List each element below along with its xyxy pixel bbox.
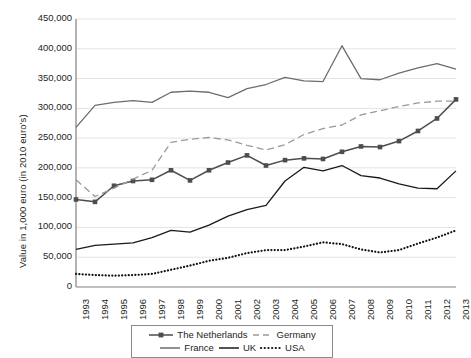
legend-swatch	[159, 343, 181, 353]
data-point-marker	[93, 200, 98, 205]
x-axis-tick-labels: 1993199419951996199719981999200020012002…	[0, 289, 465, 324]
legend-swatch	[260, 343, 282, 353]
legend-label: France	[184, 342, 214, 353]
legend-row-2: FranceUKUSA	[136, 341, 328, 354]
x-tick-label: 2001	[232, 299, 243, 320]
data-point-marker	[454, 97, 459, 102]
x-tick-label: 2007	[346, 299, 357, 320]
x-tick-label: 1998	[175, 299, 186, 320]
legend-item-the-netherlands[interactable]: The Netherlands	[148, 329, 247, 340]
data-point-marker	[340, 150, 345, 155]
data-point-marker	[435, 116, 440, 121]
legend-item-uk[interactable]: UK	[218, 342, 256, 353]
data-point-marker	[359, 144, 364, 149]
data-point-marker	[245, 153, 250, 158]
legend-item-france[interactable]: France	[159, 342, 214, 353]
x-tick-label: 2012	[441, 299, 452, 320]
data-point-marker	[226, 160, 231, 165]
x-tick-label: 1999	[194, 299, 205, 320]
data-point-marker	[207, 168, 212, 173]
x-tick-label: 2009	[384, 299, 395, 320]
legend-swatch	[218, 343, 240, 353]
x-tick-label: 1993	[80, 299, 91, 320]
x-tick-label: 2003	[270, 299, 281, 320]
data-point-marker	[188, 178, 193, 183]
legend-row-1: The NetherlandsGermany	[136, 328, 328, 341]
series-line-uk	[76, 166, 456, 250]
x-tick-label: 2010	[403, 299, 414, 320]
x-tick-label: 1994	[99, 299, 110, 320]
x-tick-label: 2000	[213, 299, 224, 320]
legend-item-usa[interactable]: USA	[260, 342, 305, 353]
data-point-marker	[302, 156, 307, 161]
x-tick-label: 1997	[156, 299, 167, 320]
legend: The NetherlandsGermany FranceUKUSA	[131, 325, 333, 358]
data-point-marker	[416, 129, 421, 134]
legend-swatch	[252, 330, 274, 340]
data-point-marker	[321, 157, 326, 162]
axis-lines	[76, 19, 456, 287]
legend-label: UK	[243, 342, 256, 353]
legend-label: USA	[285, 342, 305, 353]
data-point-marker	[283, 158, 288, 163]
x-tick-label: 2011	[422, 300, 433, 320]
series-line-usa	[76, 230, 456, 275]
data-point-marker	[264, 163, 269, 168]
legend-label: Germany	[277, 329, 316, 340]
gridlines	[76, 19, 456, 257]
plot-area	[0, 0, 465, 300]
series-lines	[74, 46, 459, 276]
x-tick-label: 2004	[289, 299, 300, 320]
x-tick-label: 2013	[460, 299, 471, 320]
data-point-marker	[169, 168, 174, 173]
data-point-marker	[397, 139, 402, 144]
x-tick-label: 1996	[137, 299, 148, 320]
legend-item-germany[interactable]: Germany	[252, 329, 316, 340]
data-point-marker	[74, 197, 79, 202]
x-tick-label: 2002	[251, 299, 262, 320]
series-line-france	[76, 46, 456, 128]
legend-label: The Netherlands	[177, 329, 247, 340]
x-tick-label: 2005	[308, 299, 319, 320]
x-tick-label: 2008	[365, 299, 376, 320]
legend-swatch	[148, 330, 174, 340]
x-tick-label: 2006	[327, 299, 338, 320]
x-tick-label: 1995	[118, 299, 129, 320]
series-line-the-netherlands	[76, 99, 456, 201]
data-point-marker	[378, 145, 383, 150]
data-point-marker	[150, 178, 155, 183]
